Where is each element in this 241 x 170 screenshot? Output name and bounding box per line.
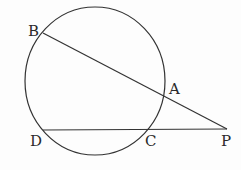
label-d: D: [30, 134, 42, 149]
label-b: B: [28, 24, 39, 39]
secant-dp: [43, 129, 227, 130]
label-c: C: [145, 134, 156, 149]
secant-diagram: B A P D C: [0, 0, 241, 170]
label-p: P: [221, 134, 231, 149]
label-a: A: [169, 82, 180, 97]
secant-bp: [43, 33, 227, 129]
circle: [25, 7, 165, 155]
